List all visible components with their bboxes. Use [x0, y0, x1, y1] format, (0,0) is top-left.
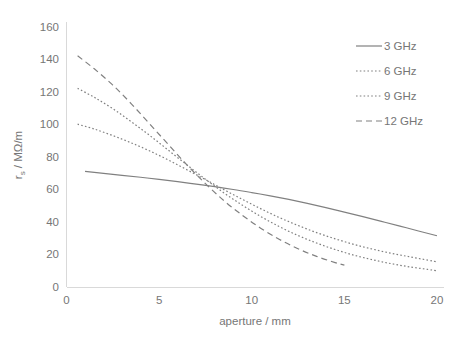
x-tick-label: 10 [245, 294, 258, 306]
legend-label-3-ghz: 3 GHz [384, 40, 417, 52]
y-tick-label: 60 [46, 183, 59, 195]
legend-label-9-ghz: 9 GHz [384, 90, 417, 102]
x-tick-label: 0 [63, 294, 69, 306]
y-tick-label: 0 [53, 281, 59, 293]
x-tick-label: 20 [431, 294, 444, 306]
x-tick-label: 5 [156, 294, 162, 306]
y-tick-label: 40 [46, 216, 59, 228]
y-tick-label: 20 [46, 248, 59, 260]
legend-label-6-ghz: 6 GHz [384, 65, 417, 77]
x-axis-title: aperture / mm [219, 315, 291, 327]
y-tick-label: 120 [40, 86, 59, 98]
y-tick-label: 140 [40, 53, 59, 65]
x-tick-label: 15 [338, 294, 351, 306]
chart-container: 020406080100120140160 05101520 aperture … [0, 0, 456, 340]
y-tick-label: 160 [40, 21, 59, 33]
y-axis-title-rest: / MΩ/m [12, 131, 24, 172]
y-tick-label: 100 [40, 118, 59, 130]
y-tick-label: 80 [46, 151, 59, 163]
line-chart: 020406080100120140160 05101520 aperture … [0, 0, 456, 340]
legend-label-12-ghz: 12 GHz [384, 115, 423, 127]
